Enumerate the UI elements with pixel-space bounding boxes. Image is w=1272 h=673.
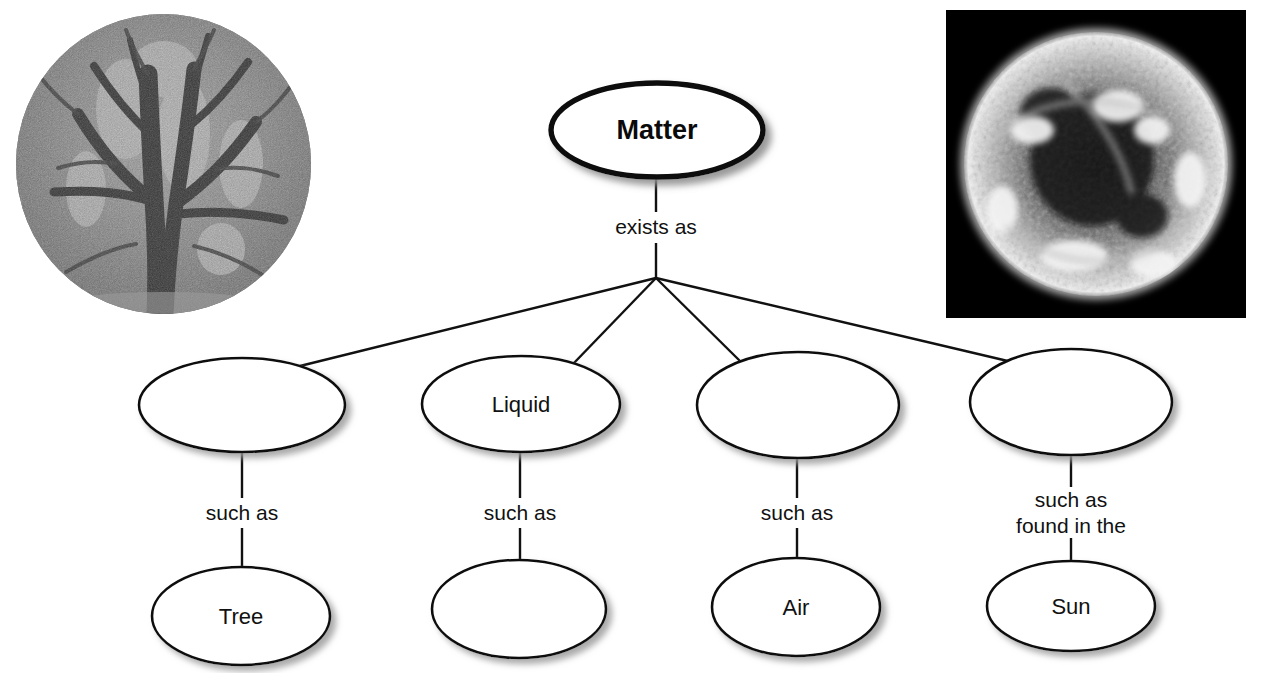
connector-fan-1 [300,278,656,366]
node-example-tree-label: Tree [219,604,263,629]
node-state-4[interactable] [970,349,1172,455]
node-state-3-oval [697,352,899,458]
link-label-such-as-4-line2: found in the [1016,514,1126,537]
node-example-2-oval [432,560,606,658]
node-example-sun[interactable]: Sun [987,561,1155,651]
node-state-1-oval [139,358,345,452]
node-matter[interactable]: Matter [551,83,763,177]
node-example-2[interactable] [432,560,606,658]
node-state-2-label: Liquid [492,392,551,417]
node-state-3[interactable] [697,352,899,458]
link-label-exists-as: exists as [615,215,697,238]
node-matter-label: Matter [616,115,698,145]
connector-fan-2 [573,278,656,364]
link-label-such-as-3: such as [761,501,833,524]
node-example-tree[interactable]: Tree [152,567,330,665]
node-example-air-label: Air [783,595,810,620]
link-label-such-as-1: such as [206,501,278,524]
concept-map: Matter exists as Liquid such as such as … [0,0,1272,673]
node-state-2[interactable]: Liquid [422,356,620,452]
node-state-1[interactable] [139,358,345,452]
node-state-4-oval [970,349,1172,455]
node-example-sun-label: Sun [1051,594,1090,619]
link-label-such-as-2: such as [484,501,556,524]
link-label-such-as-4-line1: such as [1035,488,1107,511]
diagram-page: Matter exists as Liquid such as such as … [0,0,1272,673]
node-example-air[interactable]: Air [712,558,880,656]
connector-fan-4 [656,278,1012,362]
connector-fan-3 [656,278,741,362]
